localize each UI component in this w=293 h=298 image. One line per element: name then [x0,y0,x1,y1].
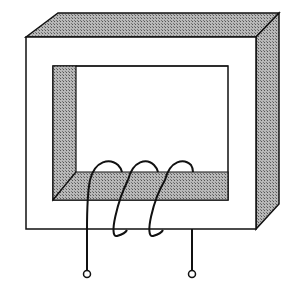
terminal-right [189,271,196,278]
core-top-face [26,13,279,37]
terminal-left [84,271,91,278]
core-right-face [256,13,279,229]
transformer-diagram [0,0,293,298]
window-bottom-floor [53,172,228,200]
